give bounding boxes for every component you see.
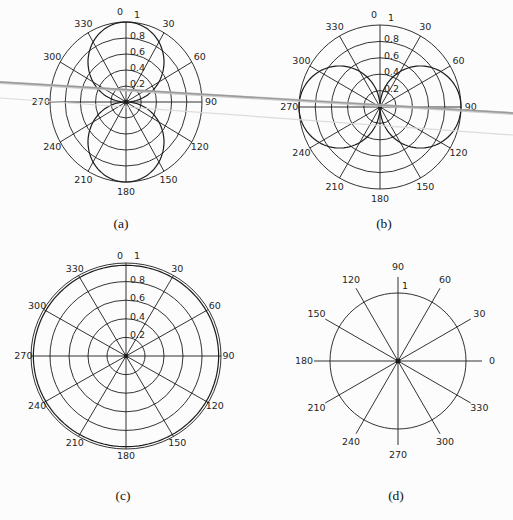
polar-plot-c: 03060901201501802102402703003300.20.40.6…	[14, 250, 234, 462]
subplot-caption-d: (d)	[388, 488, 404, 504]
angle-tick-label: 240	[292, 147, 310, 158]
angle-tick-label: 240	[342, 436, 360, 447]
angle-tick-label: 270	[14, 350, 32, 361]
angle-tick-label: 330	[66, 263, 84, 274]
scan-artifact-line-light	[0, 98, 513, 135]
angle-tick-label: 300	[28, 300, 46, 311]
angle-tick-label: 210	[66, 437, 84, 448]
radial-tick-label: 0.6	[130, 292, 145, 303]
scanned-figure-page: 03060901201501802102402703003300.20.40.6…	[0, 0, 513, 520]
center-dot	[124, 354, 128, 358]
polar-plots-canvas: 03060901201501802102402703003300.20.40.6…	[0, 0, 513, 520]
grid-spoke	[88, 102, 126, 171]
grid-spoke	[126, 356, 174, 437]
angle-tick-label: 180	[371, 193, 389, 204]
angle-tick-label: 210	[308, 402, 326, 413]
angle-tick-label: 90	[205, 96, 217, 107]
angle-tick-label: 120	[206, 400, 224, 411]
grid-spoke	[126, 356, 208, 403]
angle-tick-label: 240	[28, 400, 46, 411]
subplot-caption-c: (c)	[116, 488, 131, 504]
grid-spoke	[398, 361, 440, 434]
grid-spoke	[398, 361, 471, 403]
angle-tick-label: 60	[439, 274, 451, 285]
angle-tick-label: 210	[74, 174, 92, 185]
rmax-label: 1	[402, 280, 408, 291]
radial-tick-label: 0.6	[384, 50, 399, 61]
radial-tick-label: 0.4	[130, 311, 145, 322]
scan-artifact-line-dark	[0, 82, 513, 113]
angle-tick-label: 180	[295, 355, 313, 366]
rmax-label: 1	[134, 9, 140, 20]
subplot-caption-b: (b)	[376, 216, 392, 232]
scan-artifacts	[0, 82, 513, 135]
grid-spoke	[398, 288, 440, 361]
grid-spoke	[356, 361, 398, 434]
grid-spoke	[325, 319, 398, 361]
rmax-label: 1	[388, 12, 394, 23]
angle-tick-label: 0	[489, 355, 495, 366]
angle-tick-label: 240	[43, 141, 61, 152]
grid-spoke	[310, 107, 380, 148]
angle-tick-label: 60	[194, 51, 206, 62]
radial-tick-label: 0.8	[130, 274, 145, 285]
radial-tick-label: 0.8	[130, 30, 145, 41]
angle-tick-label: 270	[280, 101, 298, 112]
angle-tick-label: 120	[342, 274, 360, 285]
angle-tick-label: 150	[168, 437, 186, 448]
radial-tick-label: 0.4	[130, 62, 145, 73]
rmax-label: 1	[134, 250, 140, 261]
grid-spoke	[325, 361, 398, 403]
grid-spoke	[79, 356, 127, 437]
radial-tick-label: 0.4	[384, 66, 399, 77]
angle-tick-label: 150	[159, 174, 177, 185]
angle-tick-label: 60	[209, 300, 221, 311]
angle-tick-label: 120	[449, 147, 467, 158]
grid-spoke	[79, 275, 127, 356]
angle-tick-label: 60	[453, 55, 465, 66]
angle-tick-label: 300	[43, 51, 61, 62]
subplot-caption-a: (a)	[114, 216, 129, 232]
angle-tick-label: 30	[419, 21, 431, 32]
polar-plot-a: 03060901201501802102402703003300.20.40.6…	[32, 6, 217, 196]
angle-tick-label: 330	[470, 402, 488, 413]
grid-spoke	[356, 288, 398, 361]
angle-tick-label: 150	[416, 181, 434, 192]
polar-plot-d: 03060901201501802102402703003301	[295, 261, 495, 460]
angle-tick-label: 180	[117, 450, 135, 461]
grid-spoke	[44, 356, 126, 403]
angle-tick-label: 120	[191, 141, 209, 152]
angle-tick-label: 0	[371, 9, 377, 20]
grid-spoke	[398, 319, 471, 361]
angle-tick-label: 90	[223, 350, 235, 361]
angle-tick-label: 330	[74, 18, 92, 29]
angle-tick-label: 30	[163, 18, 175, 29]
angle-tick-label: 90	[392, 261, 404, 272]
grid-spoke	[44, 310, 126, 357]
grid-spoke	[126, 102, 164, 171]
radial-tick-label: 0.2	[130, 78, 145, 89]
angle-tick-label: 210	[326, 181, 344, 192]
grid-spoke	[88, 33, 126, 102]
angle-tick-label: 0	[117, 6, 123, 17]
center-dot	[396, 359, 401, 364]
angle-tick-label: 330	[326, 21, 344, 32]
radial-tick-label: 0.6	[130, 46, 145, 57]
angle-tick-label: 300	[436, 436, 454, 447]
angle-tick-label: 180	[117, 186, 135, 197]
angle-tick-label: 30	[171, 263, 183, 274]
angle-tick-label: 0	[117, 250, 123, 261]
angle-tick-label: 150	[308, 308, 326, 319]
radial-tick-label: 0.2	[130, 329, 145, 340]
angle-tick-label: 300	[292, 55, 310, 66]
angle-tick-label: 270	[389, 449, 407, 460]
angle-tick-label: 30	[473, 308, 485, 319]
radial-tick-label: 0.8	[384, 33, 399, 44]
